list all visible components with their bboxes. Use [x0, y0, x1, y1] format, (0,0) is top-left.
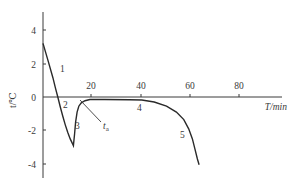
ta-leader-line	[80, 100, 101, 122]
x-tick-label: 20	[86, 81, 96, 91]
segment-label-ta: ta	[103, 121, 110, 133]
y-tick-labels: 4 2 0 -2 -4	[28, 26, 36, 170]
y-axis-label: t/℃	[8, 92, 18, 108]
segment-label-4: 4	[137, 103, 142, 113]
y-tick-label: 2	[31, 60, 36, 70]
y-tick-label: 0	[31, 93, 36, 103]
segment-label-3: 3	[75, 121, 80, 131]
y-tick-label: -2	[28, 126, 36, 136]
x-tick-labels: 20 40 60 80	[86, 81, 244, 91]
x-tick-label: 40	[136, 81, 146, 91]
x-axis-label: T/min	[265, 102, 287, 112]
x-tick-label: 80	[234, 81, 244, 91]
segment-label-2: 2	[63, 100, 68, 110]
x-tick-label: 60	[185, 81, 195, 91]
y-tick-label: 4	[31, 26, 36, 36]
y-tick-label: -4	[28, 160, 36, 170]
segment-label-5: 5	[180, 130, 185, 140]
segment-label-1: 1	[60, 64, 65, 74]
chart: 4 2 0 -2 -4 20 40 60 80 T/min t/℃ 1 2 3 …	[0, 0, 299, 194]
